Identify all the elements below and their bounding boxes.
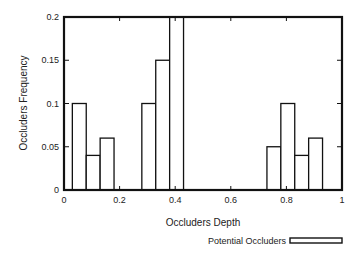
legend-label: Potential Occluders [208, 236, 287, 246]
legend: Potential Occluders [208, 236, 342, 246]
y-tick-label: 0 [54, 185, 59, 195]
legend-swatch [290, 238, 342, 243]
histogram-bar [267, 147, 281, 190]
x-tick-label: 0.2 [113, 195, 126, 205]
x-axis-label: Occluders Depth [166, 217, 240, 228]
histogram-bar [86, 155, 100, 190]
y-tick-label: 0.2 [46, 12, 59, 22]
y-tick-label: 0.15 [41, 55, 59, 65]
x-tick-label: 0 [61, 195, 66, 205]
y-tick-label: 0.1 [46, 99, 59, 109]
y-tick-label: 0.05 [41, 142, 59, 152]
x-tick-label: 0.8 [280, 195, 293, 205]
histogram-bar [170, 17, 184, 190]
histogram-bar [100, 138, 114, 190]
histogram-bar [281, 104, 295, 191]
histogram-bar [142, 104, 156, 191]
histogram-chart: 00.20.40.60.8100.050.10.150.2 Occluders … [0, 0, 360, 260]
histogram-bar [309, 138, 323, 190]
histogram-bar [72, 104, 86, 191]
histogram-bar [295, 155, 309, 190]
x-tick-label: 0.6 [225, 195, 238, 205]
y-axis-label: Occluders Frequency [18, 55, 29, 150]
histogram-bar [156, 60, 170, 190]
x-tick-label: 1 [339, 195, 344, 205]
x-tick-label: 0.4 [169, 195, 182, 205]
bars-group [72, 17, 322, 190]
